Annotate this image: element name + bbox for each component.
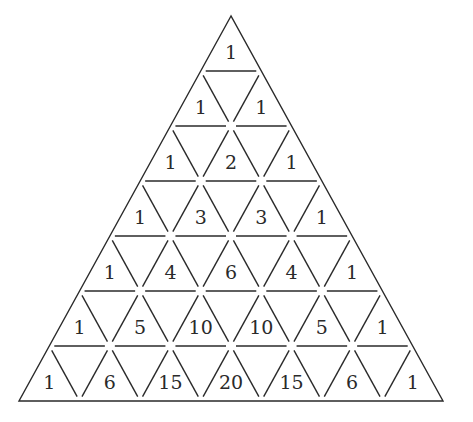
pascal-cell-value: 15 [158,373,182,392]
pascal-cell-value: 3 [195,208,207,227]
inner-diagonal-edge [143,185,168,231]
pascal-cell-value: 5 [316,318,328,337]
inner-diagonal-edge [233,240,258,286]
inner-diagonal-edge [143,295,168,341]
pascal-cell-value: 5 [134,318,146,337]
pascal-cell-value: 1 [346,263,358,282]
pascal-cell-value: 10 [249,318,273,337]
triangle-lattice [0,0,473,422]
pascal-cell-value: 1 [407,373,419,392]
pascal-cell-value: 1 [134,208,146,227]
outer-triangle-border [19,16,443,401]
pascal-cell-value: 1 [316,208,328,227]
pascal-triangle-diagram: 111121133114641151010511615201561 [0,0,473,422]
inner-diagonal-edge [233,130,258,176]
inner-diagonal-edge [203,75,228,121]
pascal-cell-value: 15 [279,373,303,392]
pascal-cell-value: 2 [225,153,237,172]
pascal-cell-value: 1 [255,98,267,117]
pascal-cell-value: 1 [74,318,86,337]
inner-diagonal-edge [173,130,198,176]
inner-diagonal-edge [112,350,137,396]
pascal-cell-value: 1 [195,98,207,117]
pascal-cell-value: 1 [43,373,55,392]
inner-diagonal-edge [324,295,349,341]
pascal-cell-value: 1 [286,153,298,172]
pascal-cell-value: 1 [225,43,237,62]
inner-diagonal-edge [264,185,289,231]
pascal-cell-value: 10 [189,318,213,337]
pascal-cell-value: 1 [376,318,388,337]
pascal-cell-value: 1 [164,153,176,172]
pascal-cell-value: 6 [225,263,237,282]
inner-diagonal-edge [173,240,198,286]
pascal-cell-value: 6 [104,373,116,392]
pascal-cell-value: 3 [255,208,267,227]
inner-diagonal-edge [203,185,228,231]
inner-diagonal-edge [355,350,380,396]
inner-diagonal-edge [294,240,319,286]
pascal-cell-value: 6 [346,373,358,392]
inner-diagonal-edge [52,350,77,396]
pascal-cell-value: 20 [219,373,243,392]
inner-diagonal-edge [82,295,107,341]
inner-diagonal-edge [112,240,137,286]
pascal-cell-value: 1 [104,263,116,282]
pascal-cell-value: 4 [164,263,176,282]
pascal-cell-value: 4 [286,263,298,282]
